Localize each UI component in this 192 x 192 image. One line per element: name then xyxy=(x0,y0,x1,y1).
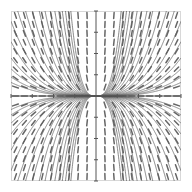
slope-mark xyxy=(105,66,106,72)
slope-mark xyxy=(78,138,79,144)
slope-mark xyxy=(78,30,79,36)
slope-mark xyxy=(78,48,79,54)
slope-mark xyxy=(114,147,115,153)
slope-mark xyxy=(87,129,88,135)
slope-mark xyxy=(114,30,115,36)
slope-mark xyxy=(104,111,105,117)
slope-mark xyxy=(87,120,88,126)
slope-mark xyxy=(114,138,115,144)
plot-canvas xyxy=(0,0,192,192)
slope-mark xyxy=(87,66,88,72)
slope-field-figure xyxy=(0,0,192,192)
slope-mark xyxy=(114,48,115,54)
slope-mark xyxy=(87,75,88,81)
slope-mark xyxy=(104,75,105,81)
slope-mark xyxy=(78,156,79,162)
slope-mark xyxy=(78,147,79,153)
slope-mark xyxy=(105,129,106,135)
slope-mark xyxy=(114,39,115,45)
slope-mark xyxy=(114,156,115,162)
slope-mark xyxy=(87,111,88,117)
slope-mark xyxy=(78,39,79,45)
slope-mark xyxy=(105,57,106,63)
slope-mark xyxy=(105,120,106,126)
slope-mark xyxy=(87,57,88,63)
